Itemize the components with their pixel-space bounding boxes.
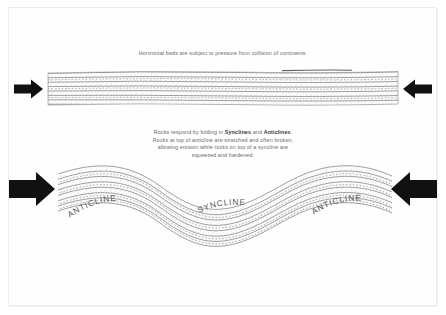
- compression-arrow-top-left: [14, 80, 43, 99]
- compression-arrow-bottom-right: [391, 172, 437, 206]
- diagram-graphics: ANTICLINE SYNCLINE ANTICLINE: [0, 0, 446, 315]
- horizontal-beds-block: [40, 65, 410, 115]
- compression-arrow-top-right: [403, 80, 432, 99]
- figure-page: Horizontal beds are subject to pressure …: [0, 0, 446, 315]
- compression-arrow-bottom-left: [9, 172, 55, 206]
